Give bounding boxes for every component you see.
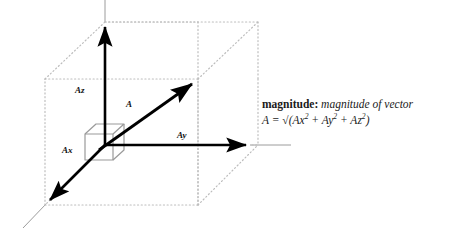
formula-radical-open: √( xyxy=(282,114,292,126)
vector-a-line xyxy=(99,84,192,150)
formula-term-x: Ax xyxy=(293,114,305,126)
axis-label-ay: Ay xyxy=(177,131,187,140)
box-edge-top-inner-diag xyxy=(198,22,258,79)
magnitude-formula: A = √(Ax2 + Ay2 + Az2) xyxy=(262,113,458,128)
formula-close-paren: ) xyxy=(366,114,370,126)
axis-label-az: Az xyxy=(75,86,85,95)
unit-cube-front-face xyxy=(85,134,113,160)
formula-lhs: A xyxy=(262,114,269,126)
x-axis-line xyxy=(50,145,105,200)
box-edge-top-left-diag xyxy=(45,22,105,79)
formula-exponent-x: 2 xyxy=(305,112,309,121)
magnitude-caption: magnitude: magnitude of vector A = √(Ax2… xyxy=(262,97,458,128)
formula-equals: = xyxy=(272,114,280,126)
axis-label-ax: Ax xyxy=(62,146,73,155)
formula-exponent-y: 2 xyxy=(333,112,337,121)
formula-plus-1: + xyxy=(311,114,319,126)
x-axis-extension xyxy=(23,204,46,228)
caption-term: magnitude: xyxy=(262,98,318,110)
formula-term-z: Az xyxy=(350,114,362,126)
axis-extension-lines xyxy=(23,0,291,228)
vector-a-arrow xyxy=(99,84,192,150)
formula-term-y: Ay xyxy=(322,114,334,126)
vector-label-a: A xyxy=(126,100,132,109)
box-edge-right-diag-lower xyxy=(198,145,258,205)
caption-definition: magnitude of vector xyxy=(321,98,413,110)
formula-plus-2: + xyxy=(340,114,348,126)
vector-diagram-figure: Az A Ax Ay magnitude: magnitude of vecto… xyxy=(0,0,461,246)
coordinate-axes xyxy=(50,27,246,200)
